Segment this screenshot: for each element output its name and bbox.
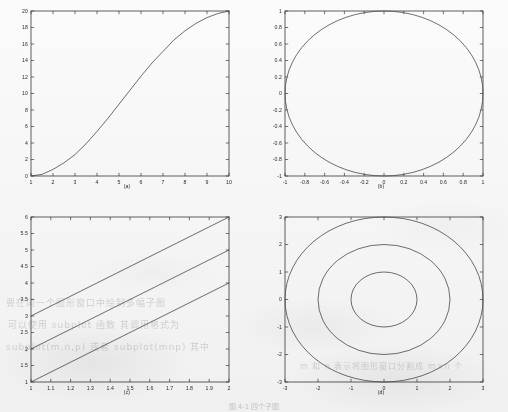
subplot-d: -3-2-10123-3-2-10123 (d) — [254, 206, 508, 412]
y-tick-label: 4 — [25, 140, 28, 146]
y-tick-label: 18 — [22, 24, 28, 30]
subplot-d-canvas: -3-2-10123-3-2-10123 — [254, 206, 508, 412]
series-circle-r3 — [285, 217, 483, 382]
y-tick-label: 6 — [25, 123, 28, 129]
y-tick-label: 3 — [279, 214, 282, 220]
y-tick-label: 0.2 — [275, 74, 282, 80]
y-tick-label: 0.4 — [275, 57, 282, 63]
subplot-a-label: (a) — [0, 183, 254, 189]
series-sigmoid-curve — [31, 11, 229, 176]
y-tick-label: 14 — [22, 57, 28, 63]
y-tick-label: 0.8 — [275, 24, 282, 30]
y-tick-label: 20 — [22, 8, 28, 14]
y-tick-label: -3 — [277, 379, 282, 385]
series-line-1 — [31, 283, 229, 382]
y-tick-label: 6 — [25, 214, 28, 220]
series-unit-circle — [285, 11, 483, 176]
y-tick-label: 0 — [279, 90, 282, 96]
figure-four-subplots: 1234567891002468101214161820 (a) -1-0.8-… — [0, 0, 508, 412]
subplot-b: -1-0.8-0.6-0.4-0.200.20.40.60.81-1-0.8-0… — [254, 0, 508, 206]
y-tick-label: 2.5 — [21, 329, 28, 335]
y-tick-label: -1 — [277, 324, 282, 330]
y-tick-label: 4 — [25, 280, 28, 286]
y-tick-label: 2 — [279, 241, 282, 247]
y-tick-label: -0.6 — [273, 140, 282, 146]
y-tick-label: 1 — [279, 8, 282, 14]
series-circle-r1 — [351, 272, 417, 327]
subplot-b-label: (b) — [254, 183, 508, 189]
subplot-c-canvas: 11.11.21.31.41.51.61.71.81.9211.522.533.… — [0, 206, 254, 412]
y-tick-label: 1.5 — [21, 362, 28, 368]
y-tick-label: 10 — [22, 90, 28, 96]
y-tick-label: 8 — [25, 107, 28, 113]
subplot-c-label: (c) — [0, 389, 254, 395]
y-tick-label: -0.2 — [273, 107, 282, 113]
y-tick-label: 3 — [25, 313, 28, 319]
series-line-3 — [31, 217, 229, 316]
figure-caption: 图 4-1 四个子图 — [0, 401, 508, 411]
y-tick-label: 0.6 — [275, 41, 282, 47]
y-tick-label: -1 — [277, 173, 282, 179]
subplot-a-canvas: 1234567891002468101214161820 — [0, 0, 254, 206]
y-tick-label: -2 — [277, 351, 282, 357]
plot-frame — [285, 217, 483, 382]
subplot-a: 1234567891002468101214161820 (a) — [0, 0, 254, 206]
series-circle-r2 — [318, 245, 450, 355]
series-line-2 — [31, 250, 229, 349]
y-tick-label: -0.8 — [273, 156, 282, 162]
y-tick-label: 2 — [25, 346, 28, 352]
y-tick-label: 3.5 — [21, 296, 28, 302]
plot-frame — [285, 11, 483, 176]
y-tick-label: 2 — [25, 156, 28, 162]
y-tick-label: 0 — [25, 173, 28, 179]
y-tick-label: 4.5 — [21, 263, 28, 269]
subplot-b-canvas: -1-0.8-0.6-0.4-0.200.20.40.60.81-1-0.8-0… — [254, 0, 508, 206]
y-tick-label: 0 — [279, 296, 282, 302]
subplot-c: 11.11.21.31.41.51.61.71.81.9211.522.533.… — [0, 206, 254, 412]
y-tick-label: 5 — [25, 247, 28, 253]
y-tick-label: 1 — [279, 269, 282, 275]
y-tick-label: 16 — [22, 41, 28, 47]
subplot-d-label: (d) — [254, 389, 508, 395]
y-tick-label: 5.5 — [21, 230, 28, 236]
y-tick-label: -0.4 — [273, 123, 282, 129]
y-tick-label: 12 — [22, 74, 28, 80]
y-tick-label: 1 — [25, 379, 28, 385]
plot-frame — [31, 11, 229, 176]
